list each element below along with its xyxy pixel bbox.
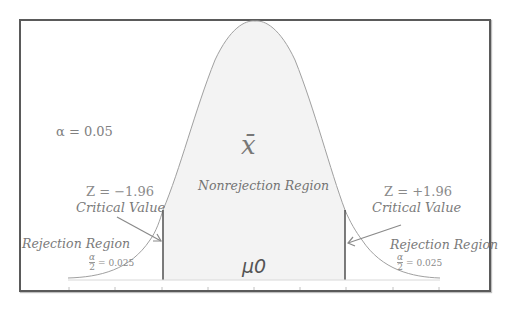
alpha-half-right: α 2 = 0.025	[397, 253, 442, 272]
alpha-half-left: α 2 = 0.025	[89, 253, 134, 272]
alpha-half-value: = 0.025	[406, 258, 442, 268]
mean-symbol: μ0	[242, 255, 266, 277]
alpha-label: α = 0.05	[56, 124, 113, 139]
alpha-half-numerator: α	[397, 253, 403, 262]
alpha-half-denominator: 2	[397, 263, 403, 272]
alpha-half-numerator: α	[89, 253, 95, 262]
z-critical-left: Z = −1.96	[86, 184, 154, 199]
critical-value-label-right: Critical Value	[372, 200, 461, 215]
rejection-region-label-left: Rejection Region	[22, 236, 130, 251]
sample-mean-symbol: x̄	[241, 130, 256, 160]
alpha-half-value: = 0.025	[98, 258, 134, 268]
rejection-region-label-right: Rejection Region	[390, 237, 498, 252]
axis-ticks	[69, 287, 439, 290]
z-critical-right: Z = +1.96	[384, 184, 452, 199]
alpha-half-denominator: 2	[89, 263, 95, 272]
critical-value-label-left: Critical Value	[76, 200, 165, 215]
nonrejection-region-label: Nonrejection Region	[198, 178, 329, 193]
